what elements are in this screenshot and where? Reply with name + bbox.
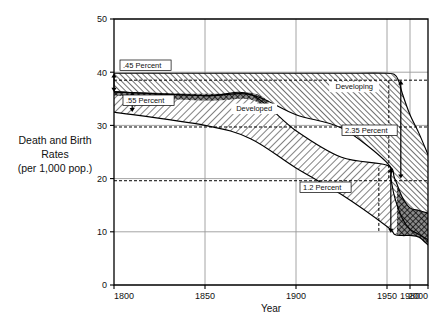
x-tick-labels: 180018501900195019802000 xyxy=(114,291,428,301)
annotation-label-text: 1.2 Percent xyxy=(303,183,342,192)
x-tick-label: 1850 xyxy=(195,291,215,301)
annotation-label-text: .45 Percent xyxy=(123,61,162,70)
y-tick-labels: 01020304050 xyxy=(97,14,107,290)
demographic-transition-figure: .45 Percent.55 Percent2.35 Percent1.2 Pe… xyxy=(0,0,445,320)
x-tick-label: 1950 xyxy=(377,291,397,301)
region-label-text: Developed xyxy=(236,104,272,113)
x-tick-label: 2000 xyxy=(408,291,428,301)
annotation-label-text: 2.35 Percent xyxy=(345,126,388,135)
y-tick-label: 50 xyxy=(97,14,107,24)
y-tick-label: 0 xyxy=(102,280,107,290)
y-tick-label: 30 xyxy=(97,121,107,131)
x-axis-title: Year xyxy=(261,303,282,314)
y-tick-label: 40 xyxy=(97,68,107,78)
y-tick-label: 10 xyxy=(97,227,107,237)
y-tick-label: 20 xyxy=(97,174,107,184)
x-tick-label: 1900 xyxy=(286,291,306,301)
y-axis-title-line2: Rates xyxy=(41,148,68,160)
y-axis-title-line1: Death and Birth xyxy=(19,134,92,146)
x-tick-label: 1800 xyxy=(114,291,134,301)
chart-svg: .45 Percent.55 Percent2.35 Percent1.2 Pe… xyxy=(0,0,445,320)
annotation-label-text: .55 Percent xyxy=(126,96,165,105)
region-label-text: Developing xyxy=(335,82,373,91)
y-axis-title-line3: (per 1,000 pop.) xyxy=(18,162,93,174)
